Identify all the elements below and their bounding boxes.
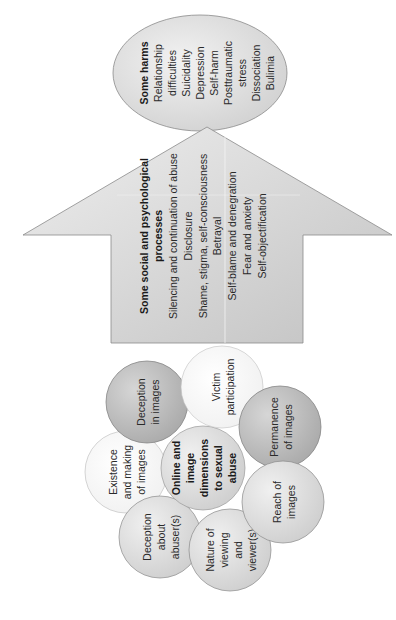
svg-text:viewing: viewing bbox=[218, 532, 230, 567]
harm-item: Self-harm bbox=[208, 50, 220, 96]
svg-text:to sexual: to sexual bbox=[212, 445, 224, 491]
harm-item: stress bbox=[236, 59, 248, 87]
svg-text:Online and: Online and bbox=[170, 441, 182, 495]
process-item: Betrayal bbox=[211, 217, 223, 256]
harm-item: Suicidality bbox=[180, 49, 192, 97]
harm-item: Posttraumatic bbox=[222, 41, 234, 105]
svg-text:Permanence: Permanence bbox=[268, 397, 280, 457]
svg-text:image: image bbox=[184, 453, 196, 484]
svg-text:Deception: Deception bbox=[135, 378, 147, 425]
svg-text:Victim: Victim bbox=[210, 373, 222, 402]
svg-text:of images: of images bbox=[135, 449, 147, 495]
svg-text:dimensions: dimensions bbox=[198, 439, 210, 498]
harm-item: Relationship bbox=[152, 44, 164, 102]
process-item: Silencing and continuation of abuse bbox=[167, 153, 179, 319]
processes-arrow: Some social and psychological processes … bbox=[23, 127, 392, 343]
process-item: Disclosure bbox=[182, 211, 194, 260]
svg-text:abuse: abuse bbox=[226, 453, 238, 484]
circle-permanence: Permanence of images bbox=[239, 386, 321, 468]
process-item: Shame, stigma, self-consciousness bbox=[197, 154, 209, 319]
svg-text:Reach of: Reach of bbox=[271, 481, 283, 523]
harm-item: Bulimia bbox=[264, 56, 276, 91]
harm-item: Depression bbox=[194, 46, 206, 99]
harm-item: difficulties bbox=[166, 50, 178, 96]
processes-title: processes bbox=[152, 210, 164, 262]
circle-reach: Reach of images bbox=[242, 461, 324, 543]
svg-text:participation: participation bbox=[224, 359, 236, 416]
svg-text:and: and bbox=[232, 541, 244, 559]
processes-title: Some social and psychological bbox=[138, 158, 150, 314]
svg-text:of images: of images bbox=[282, 404, 294, 450]
svg-text:images: images bbox=[285, 485, 297, 519]
svg-text:viewer(s): viewer(s) bbox=[246, 529, 258, 572]
circle-online-dimensions: Online and image dimensions to sexual ab… bbox=[161, 426, 245, 510]
circle-deception-images: Deception in images bbox=[106, 361, 188, 443]
harm-item: Dissociation bbox=[250, 45, 262, 102]
svg-text:abuser(s): abuser(s) bbox=[169, 515, 181, 559]
circle-deception-abuser: Deception about abuser(s) bbox=[119, 496, 201, 578]
process-item: Fear and anxiety bbox=[241, 196, 253, 275]
diagram-canvas: Some harms Relationship difficulties Sui… bbox=[0, 0, 396, 620]
process-item: Self-blame and denegration bbox=[226, 171, 238, 300]
svg-text:about: about bbox=[155, 524, 167, 550]
svg-text:Deception: Deception bbox=[141, 513, 153, 560]
svg-text:Existence: Existence bbox=[107, 449, 119, 495]
process-item: Self-objectification bbox=[256, 193, 268, 278]
svg-text:in images: in images bbox=[149, 380, 161, 425]
harms-ellipse: Some harms Relationship difficulties Sui… bbox=[113, 15, 287, 131]
harms-title: Some harms bbox=[138, 41, 150, 104]
dimensions-cluster: Existence and making of images Deception… bbox=[85, 346, 324, 591]
svg-text:Nature of: Nature of bbox=[204, 528, 216, 571]
svg-text:and making: and making bbox=[121, 445, 133, 499]
